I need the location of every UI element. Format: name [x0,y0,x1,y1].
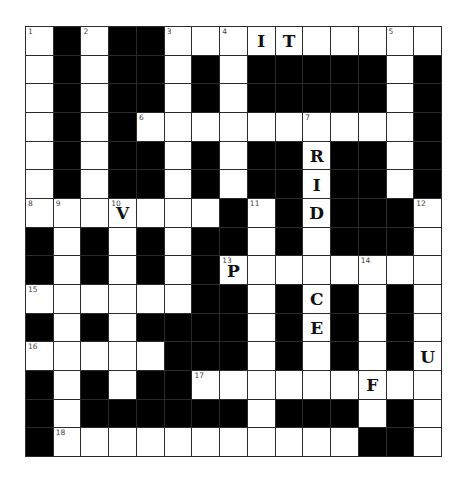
answer-cell[interactable] [109,314,136,342]
answer-cell[interactable] [414,371,441,399]
answer-cell[interactable] [359,400,386,428]
answer-cell[interactable]: 11 [248,199,275,227]
answer-cell[interactable] [303,371,330,399]
answer-cell[interactable] [276,371,303,399]
answer-cell[interactable] [81,428,108,456]
answer-cell[interactable] [248,400,275,428]
answer-cell[interactable] [81,199,108,227]
answer-cell[interactable] [54,371,81,399]
answer-cell[interactable]: 12 [414,199,441,227]
answer-cell[interactable] [137,428,164,456]
answer-cell[interactable] [26,56,53,84]
answer-cell[interactable] [54,228,81,256]
answer-cell[interactable]: 9 [54,199,81,227]
answer-cell[interactable]: C [303,285,330,313]
answer-cell[interactable] [331,256,358,284]
answer-cell[interactable]: 8 [26,199,53,227]
answer-cell[interactable] [303,342,330,370]
answer-cell[interactable] [303,428,330,456]
answer-cell[interactable] [192,428,219,456]
answer-cell[interactable] [220,56,247,84]
answer-cell[interactable] [192,27,219,55]
answer-cell[interactable] [220,371,247,399]
answer-cell[interactable] [387,170,414,198]
answer-cell[interactable]: 7 [303,113,330,141]
answer-cell[interactable] [248,342,275,370]
answer-cell[interactable] [220,84,247,112]
answer-cell[interactable] [414,285,441,313]
answer-cell[interactable] [359,113,386,141]
answer-cell[interactable] [276,428,303,456]
answer-cell[interactable] [54,256,81,284]
answer-cell[interactable] [331,428,358,456]
answer-cell[interactable] [54,400,81,428]
answer-cell[interactable] [137,199,164,227]
answer-cell[interactable] [276,113,303,141]
answer-cell[interactable] [248,428,275,456]
answer-cell[interactable] [81,56,108,84]
answer-cell[interactable] [81,342,108,370]
answer-cell[interactable] [387,256,414,284]
answer-cell[interactable] [54,285,81,313]
answer-cell[interactable] [54,314,81,342]
answer-cell[interactable] [220,142,247,170]
answer-cell[interactable]: E [303,314,330,342]
answer-cell[interactable] [303,256,330,284]
answer-cell[interactable] [414,428,441,456]
answer-cell[interactable] [248,371,275,399]
answer-cell[interactable] [331,27,358,55]
answer-cell[interactable] [248,285,275,313]
answer-cell[interactable] [387,371,414,399]
answer-cell[interactable] [387,56,414,84]
answer-cell[interactable]: 6 [137,113,164,141]
answer-cell[interactable]: U [414,342,441,370]
answer-cell[interactable] [26,170,53,198]
answer-cell[interactable] [81,170,108,198]
answer-cell[interactable] [192,113,219,141]
answer-cell[interactable] [165,170,192,198]
answer-cell[interactable]: 16 [26,342,53,370]
answer-cell[interactable] [248,256,275,284]
answer-cell[interactable]: 2 [81,27,108,55]
answer-cell[interactable]: D [303,199,330,227]
answer-cell[interactable]: 18 [54,428,81,456]
answer-cell[interactable] [81,142,108,170]
answer-cell[interactable] [109,428,136,456]
answer-cell[interactable] [109,371,136,399]
answer-cell[interactable] [303,27,330,55]
answer-cell[interactable] [387,84,414,112]
answer-cell[interactable] [414,27,441,55]
answer-cell[interactable] [331,371,358,399]
answer-cell[interactable]: 10V [109,199,136,227]
answer-cell[interactable]: R [303,142,330,170]
answer-cell[interactable] [109,228,136,256]
answer-cell[interactable] [81,84,108,112]
answer-cell[interactable] [359,314,386,342]
answer-cell[interactable] [387,142,414,170]
answer-cell[interactable] [414,400,441,428]
answer-cell[interactable] [414,314,441,342]
answer-cell[interactable] [109,342,136,370]
answer-cell[interactable] [165,84,192,112]
answer-cell[interactable] [54,342,81,370]
answer-cell[interactable] [26,113,53,141]
answer-cell[interactable] [26,142,53,170]
answer-cell[interactable]: I [248,27,275,55]
answer-cell[interactable] [414,256,441,284]
answer-cell[interactable] [109,285,136,313]
answer-cell[interactable] [81,113,108,141]
answer-cell[interactable] [165,285,192,313]
answer-cell[interactable] [165,256,192,284]
answer-cell[interactable] [165,428,192,456]
answer-cell[interactable] [359,342,386,370]
answer-cell[interactable] [414,228,441,256]
answer-cell[interactable] [137,342,164,370]
answer-cell[interactable]: 14 [359,256,386,284]
answer-cell[interactable] [81,285,108,313]
answer-cell[interactable] [220,170,247,198]
answer-cell[interactable] [248,314,275,342]
answer-cell[interactable] [137,285,164,313]
answer-cell[interactable]: I [303,170,330,198]
answer-cell[interactable]: 1 [26,27,53,55]
answer-cell[interactable]: 15 [26,285,53,313]
